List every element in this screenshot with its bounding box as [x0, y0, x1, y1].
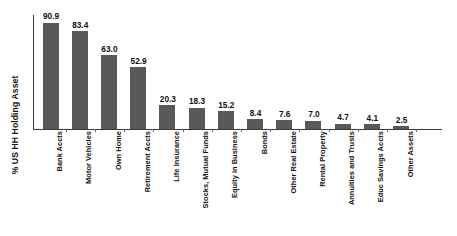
x-axis-label-slot: Other Real Estate [270, 131, 299, 231]
x-axis-category-label: Annuities and Trusts [347, 131, 356, 205]
bar-group: 2.5 [387, 12, 416, 129]
x-axis-label-slot: Bank Accts [37, 131, 66, 231]
bar [305, 121, 321, 129]
bar [43, 23, 59, 129]
x-axis-label-slot: Stocks, Mutual Funds [183, 131, 212, 231]
x-axis-label-slot: Equity in Business [212, 131, 241, 231]
x-axis-category-label: Educ Savings Accts [376, 131, 385, 202]
x-axis-category-label: Rental Property [318, 131, 327, 187]
x-axis-category-labels: Bank AcctsMotor VehiclesOwn HomeRetireme… [33, 131, 442, 234]
bar [364, 124, 380, 129]
x-axis-category-label: Stocks, Mutual Funds [201, 131, 210, 208]
bar-group: 18.3 [183, 12, 212, 129]
x-axis-label-slot: Other Assets [387, 131, 416, 231]
bar [247, 119, 263, 129]
bar [393, 126, 409, 129]
bar-value-label: 52.9 [121, 56, 156, 66]
bar [101, 55, 117, 129]
bar-group: 7.6 [270, 12, 299, 129]
bar-group: 63.0 [95, 12, 124, 129]
x-axis-category-label: Other Real Estate [289, 131, 298, 193]
bar-group: 15.2 [212, 12, 241, 129]
x-axis-category-label: Own Home [114, 131, 123, 170]
plot-area: 90.983.463.052.920.318.315.28.47.67.04.7… [33, 12, 442, 130]
bar [218, 111, 234, 129]
bar-value-label: 83.4 [63, 20, 98, 30]
x-axis-category-label: Other Assets [406, 131, 415, 177]
x-axis-label-slot: Annuities and Trusts [329, 131, 358, 231]
bar-group: 4.1 [358, 12, 387, 129]
x-axis-label-slot: Retirement Accts [124, 131, 153, 231]
x-axis-label-slot: Bonds [241, 131, 270, 231]
bar [159, 105, 175, 129]
x-axis-label-slot: Life Insurance [153, 131, 182, 231]
bar-group: 90.9 [37, 12, 66, 129]
bar-group: 8.4 [241, 12, 270, 129]
bar-value-label: 2.5 [384, 115, 419, 125]
y-axis-title: % US HH Holding Asset [8, 14, 22, 130]
bar-chart-figure: % US HH Holding Asset 90.983.463.052.920… [0, 0, 457, 236]
x-axis-label-slot: Educ Savings Accts [358, 131, 387, 231]
x-axis-category-label: Retirement Accts [143, 131, 152, 192]
x-axis-category-label: Bank Accts [55, 131, 64, 171]
bar [72, 31, 88, 129]
x-axis-category-label: Life Insurance [172, 131, 181, 182]
bar [335, 124, 351, 129]
x-axis-label-slot: Rental Property [299, 131, 328, 231]
bar-group: 7.0 [299, 12, 328, 129]
bar-group: 52.9 [124, 12, 153, 129]
bars-layer: 90.983.463.052.920.318.315.28.47.67.04.7… [33, 12, 442, 129]
x-axis-category-label: Bonds [260, 131, 269, 154]
bar [130, 67, 146, 129]
x-axis-category-label: Motor Vehicles [84, 131, 93, 184]
bar-group: 4.7 [329, 12, 358, 129]
x-axis-category-label: Equity in Business [230, 131, 239, 198]
bar-value-label: 63.0 [92, 44, 127, 54]
x-axis-label-slot: Own Home [95, 131, 124, 231]
bar [276, 120, 292, 129]
bar-group: 83.4 [66, 12, 95, 129]
bar [189, 108, 205, 129]
x-axis-label-slot: Motor Vehicles [66, 131, 95, 231]
y-axis-title-label: % US HH Holding Asset [10, 76, 20, 175]
bar-group: 20.3 [153, 12, 182, 129]
